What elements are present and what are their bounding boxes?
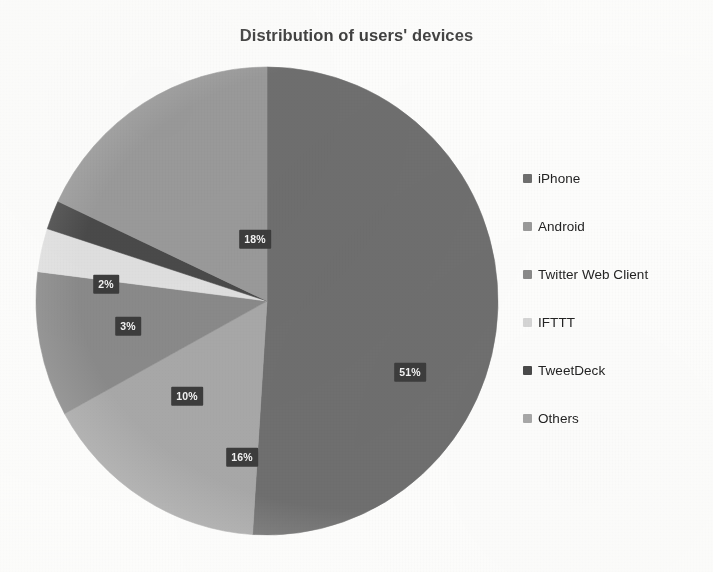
slice-data-label: 51% bbox=[394, 363, 426, 382]
legend-item[interactable]: Android bbox=[523, 216, 703, 237]
legend-swatch-icon bbox=[523, 318, 532, 327]
legend-item-label: IFTTT bbox=[538, 315, 575, 330]
pie-svg bbox=[28, 58, 510, 544]
slice-data-label: 3% bbox=[115, 317, 141, 336]
legend-item-label: TweetDeck bbox=[538, 363, 605, 378]
pie-slice-group bbox=[36, 67, 498, 535]
pie-chart-area: 51%16%10%3%2%18% bbox=[28, 58, 510, 544]
slice-data-label: 18% bbox=[239, 230, 271, 249]
legend-item[interactable]: IFTTT bbox=[523, 312, 703, 333]
legend-swatch-icon bbox=[523, 222, 532, 231]
slice-data-label: 2% bbox=[93, 275, 119, 294]
legend-swatch-icon bbox=[523, 366, 532, 375]
pie-slice[interactable] bbox=[253, 67, 498, 535]
legend-swatch-icon bbox=[523, 174, 532, 183]
legend-swatch-icon bbox=[523, 414, 532, 423]
pie-chart-figure: Distribution of users' devices 51%16%10%… bbox=[0, 0, 713, 572]
legend-item-label: Android bbox=[538, 219, 585, 234]
legend-item-label: Others bbox=[538, 411, 579, 426]
legend-item-label: Twitter Web Client bbox=[538, 267, 648, 282]
legend-item[interactable]: iPhone bbox=[523, 168, 703, 189]
legend: iPhoneAndroidTwitter Web ClientIFTTTTwee… bbox=[523, 168, 703, 456]
legend-swatch-icon bbox=[523, 270, 532, 279]
legend-item[interactable]: TweetDeck bbox=[523, 360, 703, 381]
chart-title: Distribution of users' devices bbox=[0, 26, 713, 45]
legend-item-label: iPhone bbox=[538, 171, 580, 186]
slice-data-label: 16% bbox=[226, 448, 258, 467]
legend-item[interactable]: Twitter Web Client bbox=[523, 264, 703, 285]
legend-item[interactable]: Others bbox=[523, 408, 703, 429]
slice-data-label: 10% bbox=[171, 387, 203, 406]
